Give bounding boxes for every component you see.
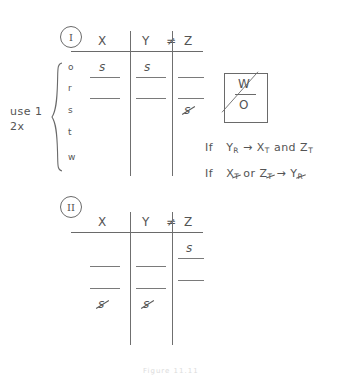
table-i-cell-o-y: s — [144, 60, 151, 74]
table-i-divider-xy — [130, 31, 131, 176]
condition-2-term-3: YR — [290, 167, 303, 180]
table-i-rule-o-x — [90, 77, 120, 78]
table-ii-divider-yz — [172, 212, 173, 345]
table-i-rule-r-z — [178, 98, 204, 99]
wo-box-slash-icon — [219, 68, 261, 116]
table-i-cell-s-z-struck: s — [184, 103, 190, 117]
use-annotation-line-2: 2x — [10, 120, 25, 133]
table-ii-rule-2-y — [136, 266, 166, 267]
table-i-rule-o-z — [178, 77, 204, 78]
table-ii-header-y: Y — [142, 215, 150, 229]
table-i-row-label-o: o — [68, 62, 74, 72]
table-label-ii: II — [60, 196, 82, 218]
table-ii-cell-1-z: s — [186, 241, 193, 255]
condition-line-1: If YR → XT and ZT — [205, 141, 313, 155]
table-ii-rule-2-z — [178, 280, 204, 281]
table-i-row-label-s: s — [68, 105, 73, 115]
table-ii-cell-4-y-struck: s — [143, 297, 149, 311]
condition-2-term-2: ZT — [260, 167, 273, 180]
table-i-rule-r-y — [136, 98, 166, 99]
table-i-header-rule — [71, 51, 203, 52]
condition-1-term-1: YR — [226, 141, 239, 154]
table-i-row-label-t: t — [68, 127, 72, 137]
table-label-i: I — [60, 26, 82, 48]
table-ii-rule-2-x — [90, 266, 120, 267]
table-i-rule-o-y — [136, 77, 166, 78]
condition-1-term-3: ZT — [300, 141, 313, 154]
condition-1-conjunction: and — [274, 141, 296, 154]
table-i-header-y: Y — [142, 34, 150, 48]
table-ii-rule-1-z — [178, 258, 204, 259]
table-i-row-label-w: w — [68, 152, 76, 162]
condition-line-2: If XT or ZT → YR — [205, 167, 303, 181]
table-i-header-x: X — [98, 34, 107, 48]
condition-1-prefix: If — [205, 141, 213, 154]
table-i-header-z: Z — [184, 34, 193, 48]
condition-1-arrow: → — [243, 141, 253, 154]
table-ii-rule-3-x — [90, 288, 120, 289]
condition-1-term-2: XT — [257, 141, 270, 154]
table-ii-cell-4-x-struck: s — [98, 297, 104, 311]
condition-2-prefix: If — [205, 167, 213, 180]
use-annotation-line-1: use 1 — [10, 105, 42, 118]
worksheet-canvas: I X Y ≠ Z use 1 2x o r s t w s s s W O I… — [0, 0, 351, 380]
table-ii-divider-xy — [130, 212, 131, 345]
figure-caption: Figure 11.11 — [143, 367, 199, 375]
table-i-cell-o-x: s — [99, 60, 106, 74]
table-ii-rule-3-y — [136, 288, 166, 289]
table-i-rule-r-x — [90, 98, 120, 99]
table-i-divider-yz — [172, 31, 173, 176]
table-ii-header-z: Z — [184, 215, 193, 229]
table-ii-header-x: X — [98, 215, 107, 229]
table-ii-header-rule — [71, 232, 203, 233]
condition-2-arrow: → — [277, 167, 287, 180]
row-group-brace — [50, 61, 64, 173]
wo-box: W O — [224, 73, 268, 123]
table-i-row-label-r: r — [68, 83, 72, 93]
condition-2-term-1: XT — [226, 167, 239, 180]
condition-2-conjunction: or — [243, 167, 255, 180]
